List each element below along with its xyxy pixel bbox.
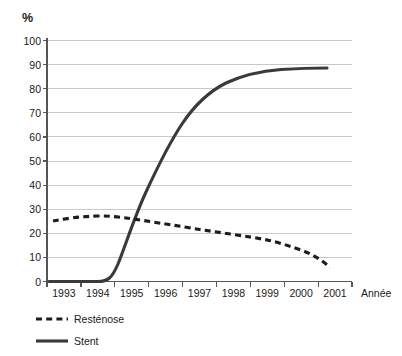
x-tick-label: 1998	[222, 287, 246, 299]
y-axis-tick-labels: 100 90 80 70 60 50 40 30 20 10 0	[23, 35, 41, 288]
legend: Resténose Stent	[36, 313, 124, 347]
x-tick-label: 1995	[120, 287, 144, 299]
gridlines	[47, 41, 352, 258]
y-tick-label: 0	[35, 276, 41, 288]
y-tick-label: 10	[29, 251, 41, 263]
series-line-stent	[49, 68, 327, 282]
legend-label-restenose: Resténose	[74, 313, 124, 325]
x-tick-label: 1999	[256, 287, 280, 299]
y-tick-label: 60	[29, 131, 41, 143]
x-tick-label: 1993	[52, 287, 76, 299]
y-tick-label: 90	[29, 59, 41, 71]
y-tick-label: 100	[23, 35, 41, 47]
x-axis-tick-labels: 1993 1994 1995 1996 1997 1998 1999 2000 …	[52, 287, 347, 299]
legend-label-stent: Stent	[74, 335, 99, 347]
x-tick-label: 1996	[154, 287, 178, 299]
y-tick-label: 50	[29, 155, 41, 167]
chart-container: % 100 90 80 70 60 50 40 30 20 10 0	[0, 0, 402, 356]
x-tick-label: 2000	[289, 287, 313, 299]
line-chart: % 100 90 80 70 60 50 40 30 20 10 0	[0, 0, 402, 356]
y-tick-label: 20	[29, 227, 41, 239]
y-axis-unit-label: %	[22, 11, 33, 25]
x-tick-label: 1994	[86, 287, 110, 299]
y-tick-label: 40	[29, 179, 41, 191]
x-tick-label: 2001	[323, 287, 347, 299]
x-axis-name-label: Année	[361, 287, 392, 299]
series-line-restenose	[53, 216, 330, 268]
y-tick-label: 30	[29, 203, 41, 215]
y-tick-label: 70	[29, 107, 41, 119]
y-tick-label: 80	[29, 83, 41, 95]
x-tick-label: 1997	[188, 287, 212, 299]
